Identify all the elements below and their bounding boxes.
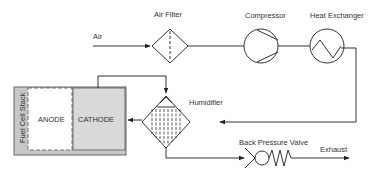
fuel-cell-air-system-diagram: Air Air Filter Compressor Heat Exchanger… (0, 0, 381, 177)
heat-exchanger-symbol (310, 29, 344, 63)
humidifier-label: Humidifier (189, 98, 223, 107)
humidifier-symbol (142, 96, 190, 148)
air-filter-symbol (152, 29, 188, 63)
heat-exchanger-label: Heat Exchanger (310, 11, 364, 20)
air-filter-label: Air Filter (154, 10, 182, 19)
cathode-label: CATHODE (78, 115, 114, 124)
exhaust-label: Exhaust (320, 145, 348, 154)
compressor-label: Compressor (245, 11, 286, 20)
back-pressure-valve-symbol (245, 148, 291, 168)
heat-exchanger-to-humidifier-line (220, 48, 356, 122)
back-pressure-valve-label: Back Pressure Valve (239, 138, 308, 147)
fuel-cell-stack-label: Fuel Cell Stack (18, 92, 27, 143)
anode-label: ANODE (38, 115, 65, 124)
air-label: Air (93, 32, 103, 41)
compressor-symbol (244, 29, 278, 63)
humidifier-to-valve-line (166, 148, 244, 158)
